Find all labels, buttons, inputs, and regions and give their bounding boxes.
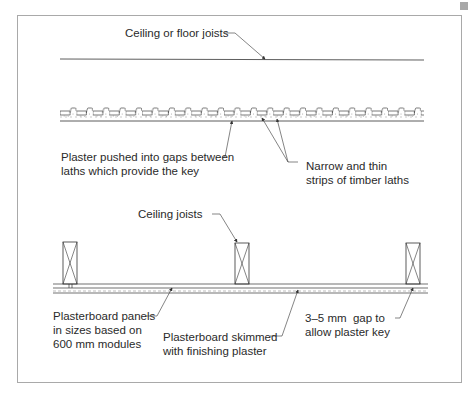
panels-label-line3: 600 mm modules: [53, 337, 141, 351]
ceiling-joists: [63, 214, 420, 284]
panels-label-line2: in sizes based on: [53, 323, 142, 337]
laths-label-line1: Narrow and thin: [306, 159, 387, 173]
laths-label-line2: strips of timber laths: [306, 173, 409, 187]
gap-label-line2: allow plaster key: [305, 325, 390, 339]
gap-label-line1: 3–5 mm gap to: [305, 311, 385, 325]
joist-label: Ceiling or floor joists: [125, 26, 229, 40]
ceiling-joists-label: Ceiling joists: [138, 207, 203, 221]
plaster-label-line2: laths which provide the key: [61, 164, 199, 178]
skim-label-line2: with finishing plaster: [163, 344, 267, 358]
panels-label-line1: Plasterboard panels: [53, 309, 155, 323]
skim-label-line1: Plasterboard skimmed: [163, 330, 277, 344]
plaster-label-line1: Plaster pushed into gaps between: [61, 150, 234, 164]
joist-line: [60, 33, 424, 60]
